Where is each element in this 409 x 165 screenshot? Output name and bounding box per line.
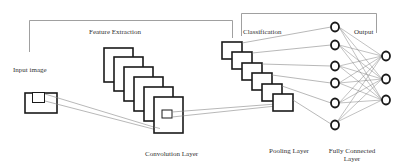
fc-to-output-connections [337,27,382,122]
pooling-layer-label: Pooling Layer [269,147,309,155]
output-nodes [382,52,390,105]
output-label: Output [354,28,373,36]
convolution-layer-stack [104,48,183,133]
cnn-diagram: Input image Feature Extraction Convoluti… [0,0,409,165]
fully-connected-label-line1: Fully Connected [327,147,377,155]
fully-connected-nodes [331,23,339,130]
conv-to-pooling-lines [172,104,276,117]
convolution-layer-label: Convolution Layer [145,150,198,158]
cnn-diagram-canvas [0,0,409,165]
classification-label: Classification [243,28,282,36]
input-image-label: Input image [13,66,47,74]
conv-kernel-box [162,110,172,118]
feature-extraction-label: Feature Extraction [89,28,141,36]
fully-connected-label-line2: Layer [327,155,377,163]
